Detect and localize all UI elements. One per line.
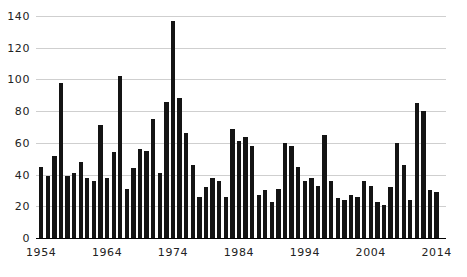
bar (408, 200, 412, 238)
bar (184, 133, 188, 238)
x-axis-tick-label: 2004 (356, 246, 386, 259)
bar (296, 167, 300, 238)
bar (204, 187, 208, 238)
bar (355, 197, 359, 238)
plot-area (36, 16, 446, 238)
bar (289, 146, 293, 238)
bar (243, 137, 247, 238)
bar (112, 152, 116, 238)
bar (52, 156, 56, 238)
bar (369, 186, 373, 238)
bar (164, 102, 168, 238)
bar (79, 162, 83, 238)
bar (322, 135, 326, 238)
bar (224, 197, 228, 238)
y-axis-tick-label: 80 (15, 105, 30, 118)
bar (230, 129, 234, 238)
x-axis-tick-label: 2014 (421, 246, 451, 259)
bar (421, 111, 425, 238)
bar (428, 190, 432, 238)
bar (92, 181, 96, 238)
bar (72, 173, 76, 238)
bar (402, 165, 406, 238)
bar (125, 189, 129, 238)
bar (138, 149, 142, 238)
x-axis-tick-label: 1974 (158, 246, 188, 259)
bar (210, 178, 214, 238)
x-axis: 1954196419741984199420042014 (0, 240, 467, 270)
bar (105, 178, 109, 238)
bar (197, 197, 201, 238)
bar (144, 151, 148, 238)
y-axis-tick-label: 140 (7, 10, 30, 23)
bar (39, 167, 43, 238)
bar (191, 165, 195, 238)
bar (283, 143, 287, 238)
bar (349, 195, 353, 238)
bar (263, 190, 267, 238)
bar (250, 146, 254, 238)
bar (85, 178, 89, 238)
bar (395, 143, 399, 238)
bar (217, 181, 221, 238)
y-axis: 020406080100120140 (0, 0, 36, 277)
bar (362, 181, 366, 238)
y-axis-tick-label: 60 (15, 136, 30, 149)
bar (329, 181, 333, 238)
x-axis-tick-label: 1964 (92, 246, 122, 259)
bar (276, 189, 280, 238)
bar (388, 187, 392, 238)
bar (336, 198, 340, 238)
bar (177, 98, 181, 238)
bar (98, 125, 102, 238)
x-axis-tick-label: 1984 (224, 246, 254, 259)
y-axis-tick-label: 40 (15, 168, 30, 181)
x-axis-tick-label: 1994 (290, 246, 320, 259)
bar (434, 192, 438, 238)
bar (59, 83, 63, 238)
x-axis-tick-label: 1954 (26, 246, 56, 259)
bar (303, 181, 307, 238)
bar (65, 176, 69, 238)
bar (309, 178, 313, 238)
bar (375, 202, 379, 238)
bar (118, 76, 122, 238)
bar (270, 202, 274, 238)
bar-chart-screenshot: 020406080100120140 195419641974198419942… (0, 0, 467, 277)
bar (237, 141, 241, 238)
y-axis-tick-label: 100 (7, 73, 30, 86)
bar (342, 200, 346, 238)
bar (382, 205, 386, 238)
bar (415, 103, 419, 238)
bar (158, 173, 162, 238)
axis-baseline (36, 238, 446, 239)
bar (316, 186, 320, 238)
bar-series (36, 16, 446, 238)
bar (131, 168, 135, 238)
bar (46, 176, 50, 238)
bar (257, 195, 261, 238)
y-axis-tick-label: 20 (15, 200, 30, 213)
bar (171, 21, 175, 238)
bar (151, 119, 155, 238)
y-axis-tick-label: 120 (7, 41, 30, 54)
